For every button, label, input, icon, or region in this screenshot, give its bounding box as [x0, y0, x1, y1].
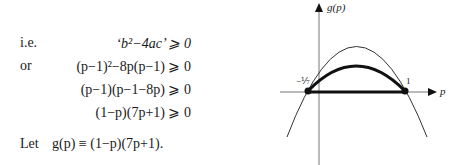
definition-expr: g(p) ≡ (1−p)(7p+1).: [52, 136, 163, 152]
x-axis-label: p: [440, 85, 446, 97]
definition-prefix: Let: [20, 136, 39, 152]
row-expr-factored: (p−1)(p−1−8p) ⩾ 0: [81, 81, 191, 98]
left-root-label: −⅐: [296, 76, 310, 86]
y-axis-arrow-icon: [315, 3, 323, 12]
graph-g-of-p: g(p) p −⅐ 1: [280, 0, 457, 165]
row-prefix-ie: i.e.: [20, 35, 37, 51]
x-axis-arrow-icon: [428, 88, 437, 96]
row-prefix-or: or: [20, 58, 32, 74]
left-root-dot: [305, 88, 312, 95]
right-root-label: 1: [406, 76, 411, 86]
parabola-positive-arc: [308, 66, 405, 91]
y-axis-label: g(p): [327, 1, 345, 13]
right-root-dot: [402, 88, 409, 95]
row-expr-expanded: (p−1)²−8p(p−1) ⩾ 0: [76, 58, 191, 75]
row-expr-discriminant: ‘b²−4ac’ ⩾ 0: [116, 35, 191, 52]
row-expr-simplified: (1−p)(7p+1) ⩾ 0: [96, 104, 191, 121]
